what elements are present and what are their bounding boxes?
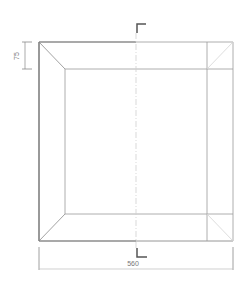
section-marker-bottom xyxy=(137,248,147,257)
inner-opening xyxy=(65,42,233,241)
section-marker-top xyxy=(137,24,146,33)
frame-diagram: 75 560 xyxy=(0,0,246,286)
dimension-label-560: 560 xyxy=(127,260,139,267)
dimension-label-75: 75 xyxy=(13,52,20,60)
dimension-rail-width xyxy=(22,42,32,69)
